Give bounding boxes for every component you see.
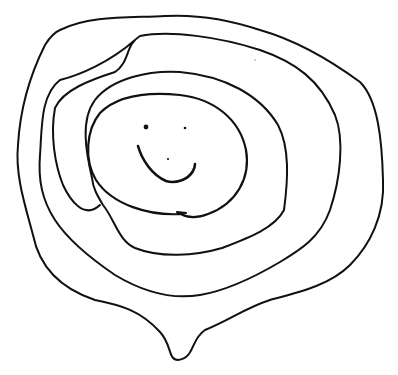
left-eye [144,125,149,130]
ink-speck [254,59,255,60]
smiley-face [138,125,195,182]
inner-face-loop [88,94,247,217]
nose-dot [167,158,169,160]
drawing-canvas [0,0,398,375]
second-loop [86,72,288,255]
outer-loop [17,16,383,360]
right-eye [184,127,187,130]
spiral-smiley-drawing [0,0,398,375]
ink-specks [254,59,255,60]
spiral-loops [17,16,383,360]
smile-mouth [138,146,195,182]
